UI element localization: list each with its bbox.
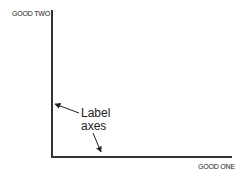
axes-diagram <box>0 0 246 176</box>
x-axis-label: GOOD ONE <box>198 163 235 170</box>
y-axis-label: GOOD TWO <box>12 10 50 17</box>
annotation-label: Label axes <box>81 107 110 133</box>
annotation-line-2: axes <box>81 120 110 133</box>
arrow-to-y-axis <box>55 104 79 113</box>
arrow-to-x-axis <box>93 133 101 152</box>
